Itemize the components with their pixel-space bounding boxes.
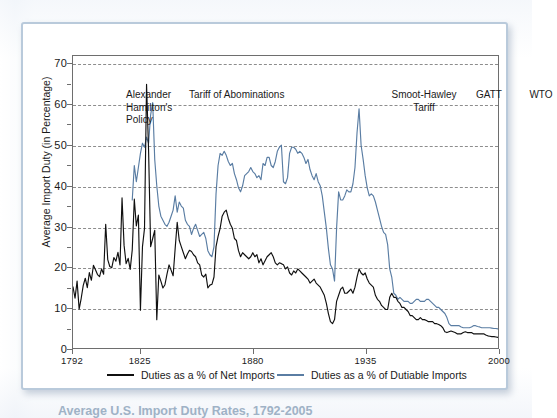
chart-card: Average Import Duty (in Percentage) 0102… bbox=[21, 22, 508, 390]
y-tick-mark-minor-25 bbox=[67, 247, 71, 248]
legend-swatch-net-icon bbox=[107, 374, 134, 376]
annotation-tariff-of-abominations: Tariff of Abominations bbox=[189, 89, 284, 102]
y-tick-label-10: 10 bbox=[54, 302, 67, 314]
x-tick-mark-1792 bbox=[72, 349, 73, 354]
x-tick-label-1880: 1880 bbox=[242, 355, 264, 366]
y-tick-label-40: 40 bbox=[54, 180, 67, 192]
y-tick-label-30: 30 bbox=[54, 221, 67, 233]
chart-legend: Duties as a % of Net Imports Duties as a… bbox=[23, 369, 506, 391]
x-tick-mark-1825 bbox=[140, 349, 141, 354]
y-tick-mark-minor-65 bbox=[67, 84, 71, 85]
annotation-gatt: GATT bbox=[459, 89, 519, 102]
y-tick-label-50: 50 bbox=[54, 139, 67, 151]
figure-caption: Average U.S. Import Duty Rates, 1792-200… bbox=[58, 404, 478, 418]
y-axis-ticks: 010203040506070 bbox=[23, 55, 67, 349]
y-tick-mark-minor-15 bbox=[67, 288, 71, 289]
y-tick-mark-minor-55 bbox=[67, 124, 71, 125]
x-tick-label-1825: 1825 bbox=[129, 355, 151, 366]
x-tick-mark-1880 bbox=[253, 349, 254, 354]
y-tick-label-70: 70 bbox=[54, 57, 67, 69]
chart-card-inner: Average Import Duty (in Percentage) 0102… bbox=[23, 24, 506, 388]
series-line-dutiable bbox=[132, 103, 498, 329]
annotation-wto: WTO bbox=[513, 89, 557, 102]
legend-label-net: Duties as a % of Net Imports bbox=[141, 369, 275, 381]
y-tick-mark-minor-45 bbox=[67, 165, 71, 166]
annotation-hamilton: Alexander Hamilton's Policy bbox=[126, 89, 172, 127]
legend-label-dutiable: Duties as a % of Dutiable Imports bbox=[311, 369, 467, 381]
legend-item-net-imports: Duties as a % of Net Imports bbox=[107, 369, 275, 381]
legend-item-dutiable-imports: Duties as a % of Dutiable Imports bbox=[277, 369, 467, 381]
x-tick-label-1792: 1792 bbox=[61, 355, 83, 366]
y-tick-mark-minor-35 bbox=[67, 206, 71, 207]
x-tick-mark-2000 bbox=[499, 349, 500, 354]
legend-swatch-dutiable-icon bbox=[277, 374, 304, 376]
plot-area: Alexander Hamilton's Policy Tariff of Ab… bbox=[72, 55, 499, 349]
x-tick-label-1935: 1935 bbox=[355, 355, 377, 366]
annotation-smoot-hawley: Smoot-Hawley Tariff bbox=[376, 89, 472, 114]
y-tick-mark-minor-5 bbox=[67, 329, 71, 330]
y-tick-label-60: 60 bbox=[54, 98, 67, 110]
y-tick-label-20: 20 bbox=[54, 261, 67, 273]
x-tick-mark-1935 bbox=[366, 349, 367, 354]
x-tick-label-2000: 2000 bbox=[488, 355, 510, 366]
